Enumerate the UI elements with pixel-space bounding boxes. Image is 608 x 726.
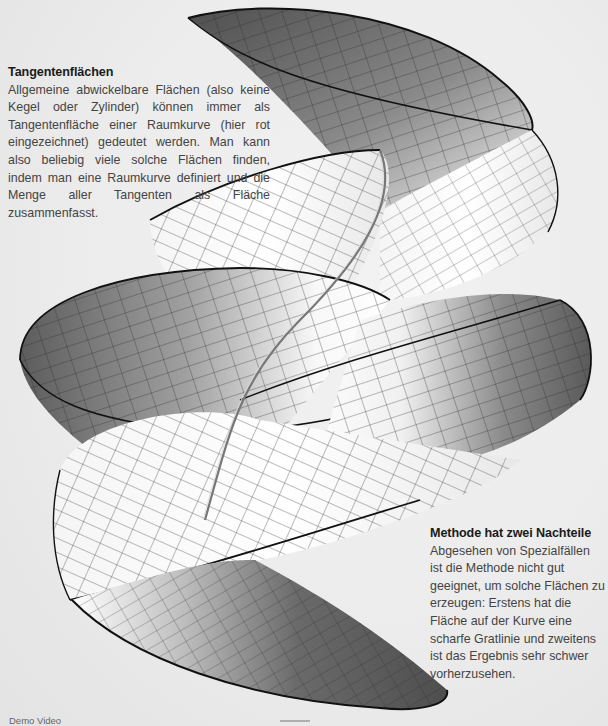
caption-title: Methode hat zwei Nachteile [430, 525, 605, 543]
caption-tangentenflaechen: Tangentenflächen Allgemeine abwickelbare… [8, 64, 270, 222]
footer-mark [280, 720, 310, 726]
caption-methode-nachteile: Methode hat zwei Nachteile Abgesehen von… [430, 525, 605, 683]
caption-body: Abgesehen von Spezialfällen ist die Meth… [430, 543, 605, 684]
caption-body: Allgemeine abwickelbare Flächen (also ke… [8, 82, 270, 223]
footer-demo-video-label[interactable]: Demo Video [9, 715, 61, 726]
caption-title: Tangentenflächen [8, 64, 270, 82]
